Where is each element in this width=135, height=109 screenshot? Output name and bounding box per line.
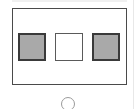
square-right-filled <box>92 33 120 61</box>
top-edge-fragment <box>12 0 127 2</box>
right-edge-line <box>133 0 134 109</box>
square-middle-empty <box>55 33 83 61</box>
circle-indicator <box>61 97 75 109</box>
square-left-filled <box>18 33 46 61</box>
